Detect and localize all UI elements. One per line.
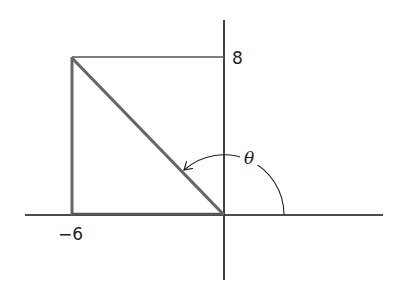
angle-label: θ — [244, 148, 254, 168]
y-value-label: 8 — [232, 48, 243, 68]
angle-arc — [184, 155, 284, 215]
x-value-label: −6 — [58, 224, 83, 244]
terminal-side — [72, 58, 224, 215]
angle-diagram: θ 8 −6 — [0, 0, 400, 288]
